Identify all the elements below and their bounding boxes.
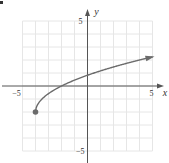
y-tick-label-5: 5: [79, 17, 83, 26]
x-axis-label: x: [162, 87, 168, 98]
x-tick-label-5: 5: [150, 89, 154, 98]
plot-area: [33, 56, 155, 115]
function-graph: −5 5 5 −5 x y: [0, 0, 169, 163]
x-tick-label-neg5: −5: [12, 89, 21, 98]
y-axis-label: y: [93, 6, 99, 17]
y-tick-label-neg5: −5: [76, 147, 85, 156]
start-point: [33, 109, 39, 115]
curve-line: [36, 57, 153, 112]
y-axis-arrow-icon: [85, 9, 90, 16]
